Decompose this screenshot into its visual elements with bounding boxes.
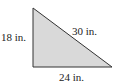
bottom-side-label: 24 in. [59,72,84,83]
right-triangle [33,8,112,67]
left-side-label: 18 in. [1,32,26,43]
hypotenuse-label: 30 in. [72,26,97,37]
